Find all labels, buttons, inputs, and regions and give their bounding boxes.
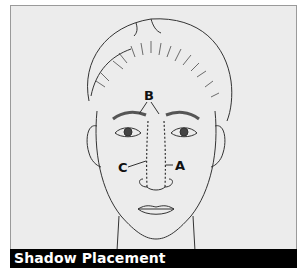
label-a: A xyxy=(175,158,185,173)
shadow-line-a xyxy=(164,121,165,187)
illustration-frame: B C A xyxy=(10,5,297,250)
right-ear xyxy=(211,126,225,167)
left-eyebrow xyxy=(113,112,146,119)
hair-outline xyxy=(88,19,232,121)
nose xyxy=(140,179,173,190)
lips xyxy=(138,206,174,215)
face-outline xyxy=(96,111,216,239)
label-b: B xyxy=(144,88,154,103)
shadow-line-c xyxy=(147,121,148,187)
caption-bar: Shadow Placement xyxy=(10,249,297,268)
face-illustration: B C A xyxy=(11,6,297,250)
label-c: C xyxy=(118,160,128,175)
left-ear xyxy=(87,126,101,167)
neck xyxy=(117,216,195,250)
right-eyebrow xyxy=(166,112,199,119)
